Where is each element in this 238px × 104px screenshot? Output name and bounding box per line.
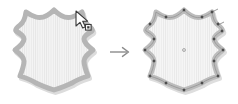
before-star-canvas[interactable] — [0, 0, 108, 104]
before-star-shape[interactable] — [15, 10, 93, 90]
figure-root: Before — [0, 0, 238, 104]
transition-panel: becomes — [108, 0, 132, 104]
after-panel: After — [130, 0, 238, 104]
right-arrow-icon — [108, 44, 132, 60]
after-star-canvas[interactable] — [130, 0, 238, 104]
before-panel: Before — [0, 0, 108, 104]
